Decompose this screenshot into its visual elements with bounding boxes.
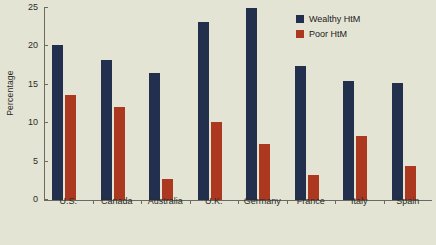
bar: [246, 8, 257, 200]
bar: [114, 107, 125, 200]
bar: [198, 22, 209, 200]
bar-group: [141, 8, 190, 200]
x-axis-label: Australia: [148, 196, 183, 206]
bar: [65, 95, 76, 200]
x-tick-mark: [335, 200, 336, 204]
bar: [392, 83, 403, 200]
bar: [343, 81, 354, 200]
bar: [149, 73, 160, 200]
bar: [356, 136, 367, 200]
x-tick-mark: [238, 200, 239, 204]
x-tick-mark: [93, 200, 94, 204]
x-axis-label: Germany: [244, 196, 281, 206]
legend-item-wealthy: Wealthy HtM: [296, 14, 360, 24]
bar: [101, 60, 112, 200]
bar: [295, 66, 306, 200]
y-tick-label: 10: [28, 118, 38, 127]
bar: [52, 45, 63, 200]
x-axis-label: U.K.: [205, 196, 223, 206]
bar-group: [384, 8, 433, 200]
y-tick-label: 5: [33, 156, 38, 165]
bar-group: [44, 8, 93, 200]
legend-label-poor: Poor HtM: [309, 29, 347, 39]
legend-item-poor: Poor HtM: [296, 29, 360, 39]
bar-chart: Percentage 0510152025 U.S.CanadaAustrali…: [0, 0, 436, 245]
bar-group: [190, 8, 239, 200]
legend-swatch-icon-wealthy: [296, 15, 304, 23]
y-tick-label: 15: [28, 79, 38, 88]
y-tick-label: 0: [33, 195, 38, 204]
x-tick-mark: [141, 200, 142, 204]
bar: [259, 144, 270, 200]
bar-group: [93, 8, 142, 200]
x-axis-label: Italy: [351, 196, 368, 206]
x-axis-label: Canada: [101, 196, 133, 206]
bar-group: [238, 8, 287, 200]
y-axis-label: Percentage: [5, 53, 15, 133]
x-axis-label: Spain: [396, 196, 419, 206]
x-tick-mark: [384, 200, 385, 204]
x-axis-label: U.S.: [59, 196, 77, 206]
legend: Wealthy HtM Poor HtM: [296, 14, 360, 44]
y-tick-label: 20: [28, 41, 38, 50]
bar: [405, 166, 416, 200]
legend-label-wealthy: Wealthy HtM: [309, 14, 360, 24]
x-tick-mark: [190, 200, 191, 204]
y-tick-label: 25: [28, 3, 38, 12]
bar: [211, 122, 222, 200]
x-tick-mark: [287, 200, 288, 204]
x-axis-label: France: [297, 196, 325, 206]
legend-swatch-icon-poor: [296, 30, 304, 38]
plot-area: 0510152025: [44, 8, 432, 201]
